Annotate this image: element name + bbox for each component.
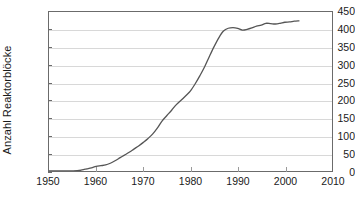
y-tick-mark (48, 47, 52, 48)
y-tick-label: 250 (311, 77, 355, 88)
x-tick-label: 2010 (321, 176, 344, 187)
y-tick-label: 450 (311, 6, 355, 17)
y-tick-mark (48, 29, 52, 30)
y-tick-label: 300 (311, 59, 355, 70)
x-tick-mark (286, 167, 287, 172)
y-tick-label: 200 (311, 95, 355, 106)
y-tick-label: 50 (311, 149, 355, 160)
y-tick-mark (48, 100, 52, 101)
x-tick-label: 1950 (36, 176, 59, 187)
y-tick-label: 400 (311, 24, 355, 35)
x-tick-label: 1980 (179, 176, 202, 187)
y-tick-mark (48, 118, 52, 119)
x-tick-mark (238, 167, 239, 172)
y-tick-mark (48, 154, 52, 155)
y-tick-label: 150 (311, 113, 355, 124)
y-tick-label: 100 (311, 131, 355, 142)
y-tick-mark (48, 172, 52, 173)
x-tick-label: 1970 (131, 176, 154, 187)
y-tick-mark (48, 11, 52, 12)
y-tick-label: 350 (311, 42, 355, 53)
y-axis-title: Anzahl Reaktorblöcke (0, 0, 14, 200)
x-tick-label: 1960 (84, 176, 107, 187)
y-tick-mark (48, 136, 52, 137)
plot-area (48, 11, 333, 172)
line-series (49, 12, 332, 171)
x-tick-mark (143, 167, 144, 172)
y-tick-mark (48, 83, 52, 84)
x-tick-label: 2000 (274, 176, 297, 187)
chart-figure: Anzahl Reaktorblöcke 0501001502002503003… (0, 0, 355, 200)
y-tick-mark (48, 65, 52, 66)
series-line (49, 21, 299, 171)
x-tick-label: 1990 (226, 176, 249, 187)
x-tick-mark (96, 167, 97, 172)
x-tick-mark (191, 167, 192, 172)
